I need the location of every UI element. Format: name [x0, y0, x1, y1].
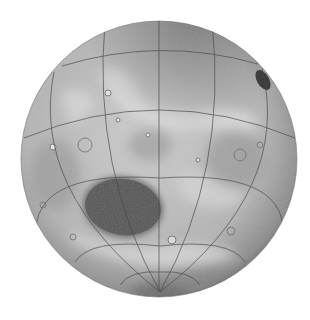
globe-svg [0, 0, 310, 320]
planet-surface [0, 0, 310, 320]
globe-image [0, 0, 310, 320]
